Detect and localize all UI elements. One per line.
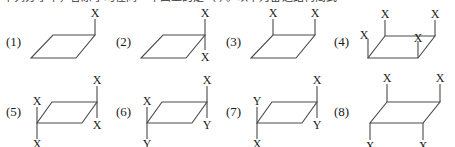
figure-8-label-1: X: [436, 71, 445, 85]
figure-7-label-1: Y: [313, 118, 322, 132]
figure-5-parallelogram: [37, 102, 97, 123]
figure-8-label-2: X: [366, 139, 375, 147]
figure-6-label-3: Y: [143, 137, 152, 147]
figure-4-label-1: X: [431, 7, 440, 21]
figure-5-label-0: X: [93, 73, 102, 87]
figure-6: (6) X Y X Y: [110, 68, 220, 147]
figure-7-label-2: Y: [253, 94, 262, 108]
figure-4-label-0: X: [381, 7, 390, 21]
figure-6-label-0: X: [203, 73, 212, 87]
figure-3-parallelogram: [251, 35, 315, 58]
figure-4: (4) X X X X: [330, 8, 455, 68]
figure-4-label-2: X: [360, 28, 369, 42]
figure-1-parallelogram: [31, 35, 95, 58]
figure-2-label-1: X: [201, 50, 210, 64]
figure-7-parallelogram: [257, 102, 317, 123]
figure-7: (7) X Y Y X: [220, 68, 330, 147]
figure-6-label-2: X: [143, 94, 152, 108]
figure-2-parallelogram: [141, 35, 205, 58]
figure-3-label-0: X: [269, 6, 278, 20]
diagram-sheet: 下列分子中，各原子均在同一平面上的是（ ）。以下为备选结构简式 (1) X (2…: [0, 0, 455, 147]
figure-8: (8) X X X X: [330, 68, 455, 147]
figure-1-label-0: X: [91, 6, 100, 20]
figure-4-label-3: X: [414, 31, 423, 45]
figure-row-top: (1) X (2) X X (3): [0, 8, 455, 68]
figure-7-label-0: X: [313, 73, 322, 87]
figure-8-label-0: X: [383, 71, 392, 85]
figure-5-label-1: X: [93, 118, 102, 132]
figure-4-parallelogram: [368, 36, 435, 58]
figure-5-label-2: X: [33, 94, 42, 108]
figure-2-label-0: X: [201, 6, 210, 20]
figure-7-label-3: X: [253, 137, 262, 147]
figure-8-parallelogram: [370, 102, 440, 123]
figure-1: (1) X: [0, 8, 110, 68]
figure-3-label-1: X: [311, 6, 320, 20]
figure-8-label-3: X: [419, 139, 428, 147]
figure-3: (3) X X: [220, 8, 330, 68]
figure-row-bottom: (5) X X X X (6) X Y: [0, 68, 455, 147]
figure-5-label-3: X: [33, 137, 42, 147]
clipped-question-text: 下列分子中，各原子均在同一平面上的是（ ）。以下为备选结构简式: [3, 0, 443, 5]
figure-6-parallelogram: [147, 102, 207, 123]
figure-5: (5) X X X X: [0, 68, 110, 147]
figure-6-label-1: Y: [203, 118, 212, 132]
figure-2: (2) X X: [110, 8, 220, 68]
